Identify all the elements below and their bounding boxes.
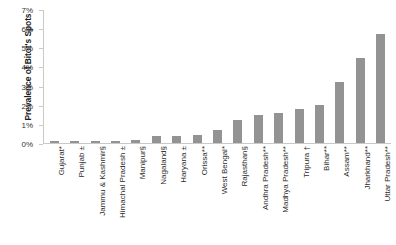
bar: [172, 136, 181, 143]
bar: [376, 34, 385, 143]
bar-slot: [330, 10, 350, 143]
bar: [274, 113, 283, 143]
bar: [50, 141, 59, 143]
bar: [193, 135, 202, 143]
bar: [356, 58, 365, 144]
x-label-slot: Himachal Pradesh ±: [105, 146, 125, 245]
bitots-spots-bar-chart: Prevalence of Bitot's Spots 7%6%5%4%3%2%…: [0, 0, 396, 245]
bar-slot: [85, 10, 105, 143]
x-label-slot: West Bengal*: [207, 146, 227, 245]
bar-slot: [289, 10, 309, 143]
y-axis-tick: 6%: [39, 29, 43, 30]
x-label-slot: Punjab ±: [64, 146, 84, 245]
y-axis-tick-label: 3%: [21, 82, 33, 91]
y-axis-tick-label: 2%: [21, 101, 33, 110]
x-label-slot: Haryana ±: [166, 146, 186, 245]
x-label-slot: Madhya Pradesh**: [268, 146, 288, 245]
x-label-slot: Uttar Pradesh**: [371, 146, 391, 245]
y-axis-tick: 1%: [39, 125, 43, 126]
y-axis-tick: 5%: [39, 48, 43, 49]
y-axis-tick-label: 5%: [21, 44, 33, 53]
bar-slot: [44, 10, 64, 143]
bar: [152, 136, 161, 143]
bar-slot: [371, 10, 391, 143]
bar-slot: [228, 10, 248, 143]
x-label-slot: Andhra Pradesh**: [248, 146, 268, 245]
bar: [335, 82, 344, 143]
y-axis-tick-label: 4%: [21, 63, 33, 72]
y-axis-tick-label: 0%: [21, 140, 33, 149]
x-label-slot: Gujarat*: [44, 146, 64, 245]
bar-slot: [187, 10, 207, 143]
bar: [91, 141, 100, 143]
bar-slot: [166, 10, 186, 143]
bar: [315, 105, 324, 143]
bar-slot: [126, 10, 146, 143]
plot-area: 7%6%5%4%3%2%1%0%: [43, 10, 391, 144]
bar: [70, 141, 79, 143]
x-label-slot: Jharkhand**: [350, 146, 370, 245]
y-axis-tick: 0%: [39, 144, 43, 145]
x-label-slot: Assam**: [330, 146, 350, 245]
bar: [111, 141, 120, 143]
bar-slot: [309, 10, 329, 143]
x-label-slot: Bihar**: [309, 146, 329, 245]
x-label-slot: Jammu & Kashmir§: [85, 146, 105, 245]
x-label-slot: Tripura †: [289, 146, 309, 245]
bar-slot: [64, 10, 84, 143]
y-axis-tick: 3%: [39, 87, 43, 88]
bar-slot: [248, 10, 268, 143]
bar-slot: [146, 10, 166, 143]
bar-slot: [207, 10, 227, 143]
y-axis-tick-label: 6%: [21, 25, 33, 34]
x-label-slot: Rajasthan§: [228, 146, 248, 245]
bar-slot: [350, 10, 370, 143]
x-axis-line: [43, 143, 391, 144]
bar: [233, 120, 242, 143]
bar-slot: [268, 10, 288, 143]
y-axis-tick: 2%: [39, 106, 43, 107]
bar: [254, 115, 263, 144]
bar-slot: [105, 10, 125, 143]
x-label-slot: Manipur§: [126, 146, 146, 245]
y-axis-tick: 7%: [39, 10, 43, 11]
bar-series: [44, 10, 391, 143]
y-axis-tick-label: 1%: [21, 120, 33, 129]
x-axis-labels: Gujarat*Punjab ±Jammu & Kashmir§Himachal…: [44, 146, 391, 245]
bar: [295, 109, 304, 143]
x-axis-tick-label: Uttar Pradesh**: [384, 146, 392, 202]
y-axis-tick: 4%: [39, 67, 43, 68]
bar: [131, 140, 140, 143]
bar: [213, 130, 222, 143]
x-label-slot: Nagaland§: [146, 146, 166, 245]
y-axis-tick-label: 7%: [21, 6, 33, 15]
x-label-slot: Orissa**: [187, 146, 207, 245]
